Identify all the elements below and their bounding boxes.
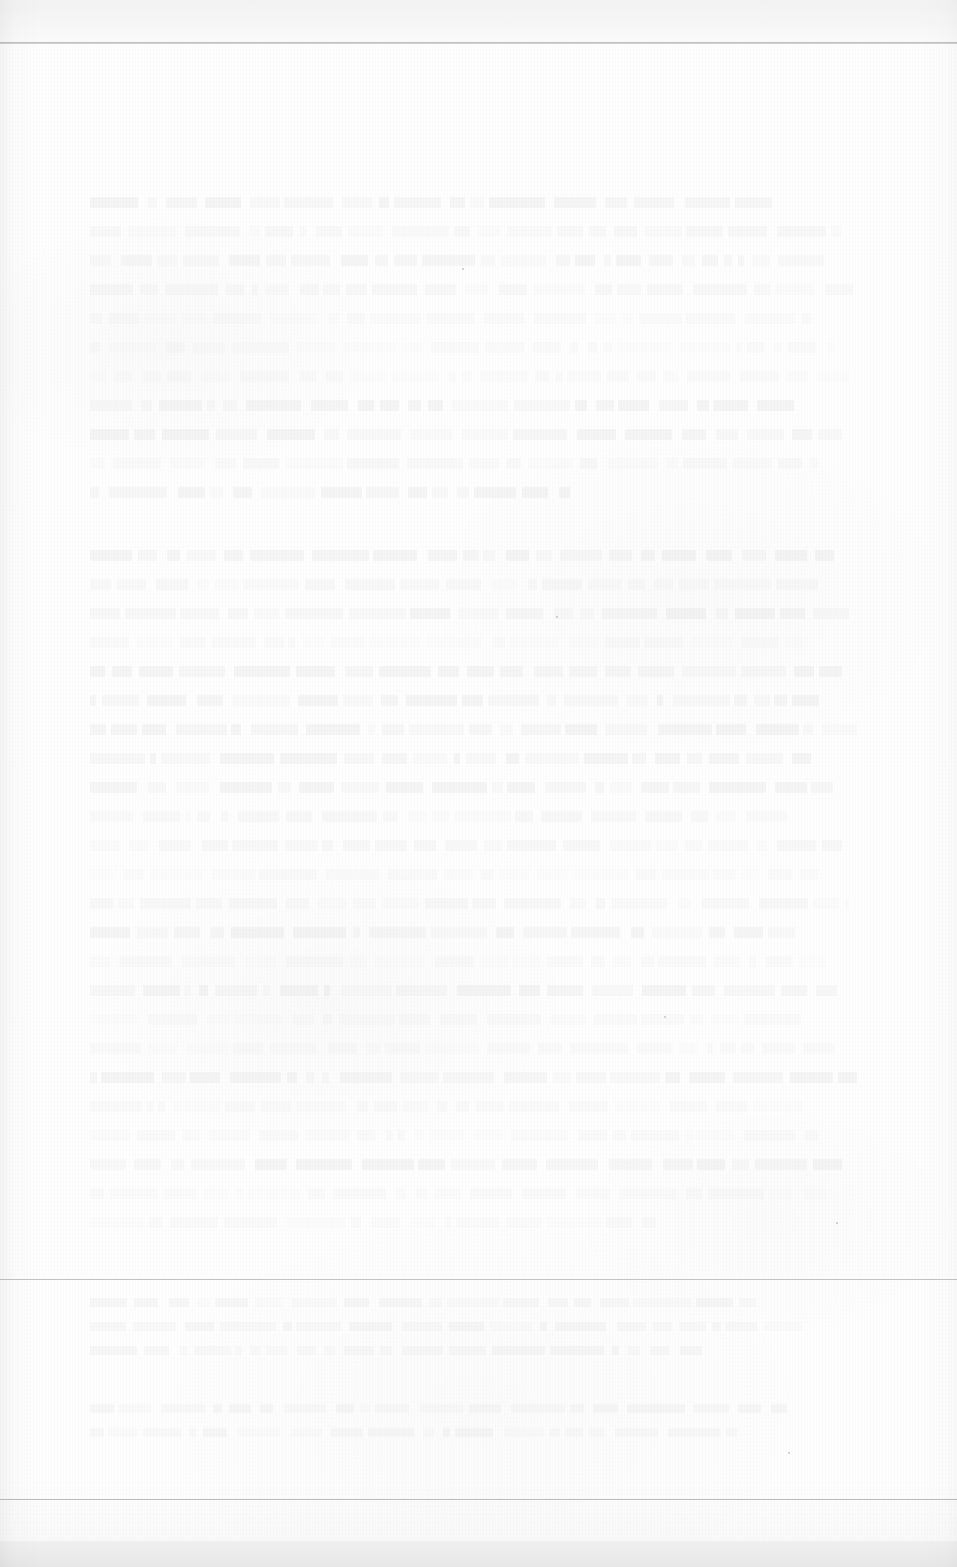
- scan-speck: [788, 1452, 790, 1454]
- footnote-1: [90, 1292, 865, 1364]
- text-line: [90, 978, 865, 1007]
- text-line: [90, 717, 865, 746]
- body-text-column: [90, 190, 865, 1239]
- footnote-2: [90, 1398, 865, 1446]
- scan-speck: [664, 1016, 666, 1018]
- text-line: [90, 1422, 865, 1446]
- text-line: [90, 1292, 865, 1316]
- text-line: [90, 1094, 865, 1123]
- text-line: [90, 393, 865, 422]
- footer-rule-upper: [0, 1499, 957, 1500]
- text-line: [90, 1036, 865, 1065]
- footer-band: [0, 1541, 957, 1567]
- text-line: [90, 451, 865, 480]
- text-line: [90, 833, 865, 862]
- text-line: [90, 1316, 865, 1340]
- text-line: [90, 1065, 865, 1094]
- scanned-page: [0, 0, 957, 1567]
- paragraph-1: [90, 190, 865, 509]
- text-line: [90, 1398, 865, 1422]
- text-line: [90, 746, 865, 775]
- text-line: [90, 688, 865, 717]
- footnote-separator-rule: [0, 1279, 957, 1280]
- text-line: [90, 1181, 865, 1210]
- text-line: [90, 601, 865, 630]
- text-line: [90, 862, 865, 891]
- text-line: [90, 1210, 865, 1239]
- text-line: [90, 1007, 865, 1036]
- text-line: [90, 920, 865, 949]
- text-line: [90, 364, 865, 393]
- footnote-column: [90, 1292, 865, 1446]
- text-line: [90, 422, 865, 451]
- scan-speck: [836, 1222, 838, 1224]
- scan-speck: [556, 616, 558, 618]
- text-line: [90, 775, 865, 804]
- text-line: [90, 335, 865, 364]
- text-line: [90, 949, 865, 978]
- text-line: [90, 572, 865, 601]
- text-line: [90, 891, 865, 920]
- text-line: [90, 1340, 865, 1364]
- text-line: [90, 1152, 865, 1181]
- text-line: [90, 1123, 865, 1152]
- text-line: [90, 190, 865, 219]
- text-line: [90, 306, 865, 335]
- header-rule: [0, 42, 957, 44]
- text-line: [90, 804, 865, 833]
- header-band: [0, 0, 957, 42]
- text-line: [90, 248, 865, 277]
- text-line: [90, 630, 865, 659]
- text-line: [90, 480, 865, 509]
- text-line: [90, 543, 865, 572]
- paragraph-2: [90, 543, 865, 1239]
- scan-speck: [462, 268, 464, 270]
- text-line: [90, 219, 865, 248]
- text-line: [90, 659, 865, 688]
- text-line: [90, 277, 865, 306]
